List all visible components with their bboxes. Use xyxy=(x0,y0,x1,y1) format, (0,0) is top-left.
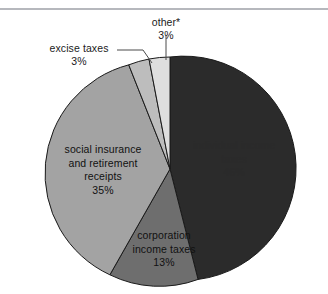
slice-label-social-insurance-line3: receipts xyxy=(46,170,160,184)
pie-chart-figure: other* 3% excise taxes 3% individual inc… xyxy=(0,0,328,294)
slice-label-excise-taxes-value: 3% xyxy=(34,55,124,68)
slice-label-individual-income-taxes-value: 46% xyxy=(180,166,288,180)
slice-label-other: other* 3% xyxy=(130,16,202,41)
slice-label-other-name: other* xyxy=(130,16,202,29)
slice-label-social-insurance: social insurance and retirement receipts… xyxy=(46,143,160,197)
slice-label-corporation-income-taxes: corporation income taxes 13% xyxy=(112,229,216,270)
slice-label-excise-taxes-name: excise taxes xyxy=(34,42,124,55)
slice-label-individual-income-taxes-line2: taxes xyxy=(180,153,288,167)
slice-label-individual-income-taxes-line1: individual income xyxy=(180,139,288,153)
slice-label-social-insurance-line1: social insurance xyxy=(46,143,160,157)
slice-label-corporation-income-taxes-value: 13% xyxy=(112,256,216,270)
slice-label-social-insurance-value: 35% xyxy=(46,184,160,198)
slice-label-social-insurance-line2: and retirement xyxy=(46,157,160,171)
slice-label-corporation-income-taxes-line1: corporation xyxy=(112,229,216,243)
slice-label-excise-taxes: excise taxes 3% xyxy=(34,42,124,67)
slice-label-individual-income-taxes: individual income taxes 46% xyxy=(180,139,288,180)
slice-label-other-value: 3% xyxy=(130,29,202,42)
slice-label-corporation-income-taxes-line2: income taxes xyxy=(112,243,216,257)
